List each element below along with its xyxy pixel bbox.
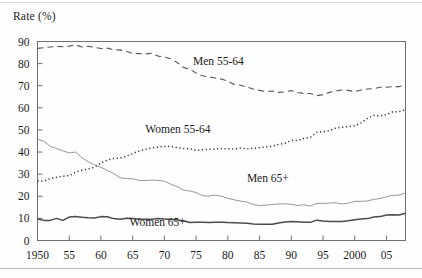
x-tick-label: 90 (286, 249, 298, 261)
y-tick-labels: 0102030405060708090 (18, 36, 30, 247)
x-tick-label: 95 (317, 249, 329, 261)
series-line-women-65 (38, 213, 406, 224)
x-tick-label: 80 (222, 249, 234, 261)
y-tick-label: 50 (18, 124, 30, 136)
series-line-women-55-64 (38, 110, 406, 181)
series-lines (38, 45, 406, 225)
x-tick-label: 55 (63, 249, 75, 261)
chart-figure: Rate (%) 0102030405060708090 19505560657… (0, 0, 422, 278)
series-label-men-65-plus: Men 65+ (247, 172, 289, 184)
y-tick-label: 20 (18, 190, 30, 202)
line-chart-svg: 0102030405060708090 19505560657075808590… (0, 0, 422, 278)
x-tick-label: 85 (254, 249, 266, 261)
x-tick-label: 65 (127, 249, 139, 261)
axis-ticks (38, 64, 387, 241)
y-tick-label: 40 (18, 146, 30, 158)
y-tick-label: 0 (24, 235, 30, 247)
y-tick-label: 70 (18, 80, 30, 92)
y-tick-label: 80 (18, 58, 30, 70)
y-tick-label: 30 (18, 168, 30, 180)
series-label-women-65-plus: Women 65+ (130, 216, 186, 228)
x-tick-label: 1950 (26, 249, 49, 261)
y-tick-label: 10 (18, 212, 30, 224)
x-tick-label: 60 (95, 249, 107, 261)
x-tick-label: 70 (159, 249, 171, 261)
bottom-rule (0, 268, 422, 269)
series-label-men-55-64: Men 55-64 (193, 55, 244, 67)
x-tick-label: 2000 (343, 249, 366, 261)
plot-frame (38, 42, 406, 241)
x-tick-label: 75 (190, 249, 202, 261)
series-line-men-55-64 (38, 45, 406, 96)
y-tick-label: 60 (18, 102, 30, 114)
plot-area: 0102030405060708090 19505560657075808590… (0, 0, 422, 278)
series-label-women-55-64: Women 55-64 (145, 123, 210, 135)
x-tick-label: 05 (381, 249, 393, 261)
x-tick-labels: 1950556065707580859095200005 (26, 249, 392, 261)
y-tick-label: 90 (18, 36, 30, 48)
series-annotations: Men 55-64Women 55-64Men 65+Women 65+ (130, 55, 289, 228)
